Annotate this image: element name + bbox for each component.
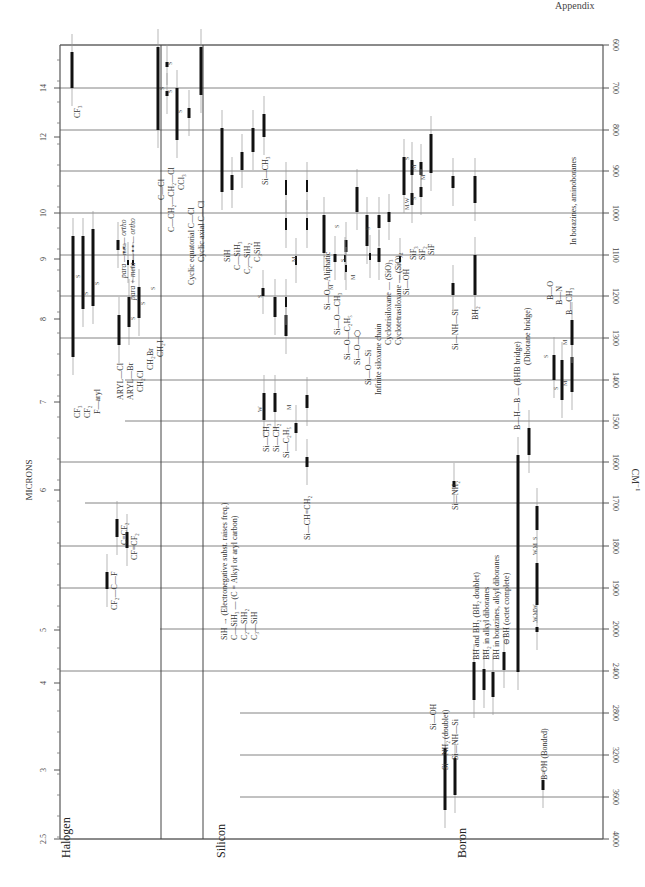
band-bar [188,108,191,118]
intensity-mark: M [411,164,417,170]
um-tick-label: 12 [39,133,48,141]
intensity-mark: M [286,404,292,410]
band-bar [72,236,75,357]
band-bar [420,187,423,197]
band-bar [285,218,287,230]
band-bar [221,128,224,192]
band-label: In borazines, aminoboranes [569,157,578,245]
band-label: CH₂Cl [136,370,145,392]
band-bar [295,423,298,433]
band-label: Si—C₂H₅ [282,426,291,458]
intensity-mark: S [130,317,136,320]
wn-tick-label: 600 [611,39,620,51]
wn-tick-label: 3200 [611,747,620,763]
band-bar [241,152,244,170]
band-bar [306,218,308,230]
band-label: Si—O—C₂H₅ [343,315,352,360]
band-label: ARYL—Br [126,362,135,400]
band-label: ⊖BH (octet complete) [502,572,511,645]
band-label: BH and BH₂ (BH₂ doublet) [472,572,481,660]
wn-tick-label: 1200 [611,288,620,304]
band-bar [536,563,539,605]
band-label: Si—OH [429,704,438,730]
intensity-mark: para — ▪ ▪ — ortho [119,219,128,279]
absorption-bands [71,29,574,828]
section-label-halogen: Halogen [59,817,73,858]
band-label: CCl₃ [177,174,186,190]
intensity-mark: W [257,406,263,412]
wn-tick-label: 1600 [611,454,620,470]
band-bar [452,283,455,295]
band-bar [263,114,266,137]
intensity-mark: M [328,284,334,290]
band-label: Cyclic equatorial C—Cl [187,206,196,285]
wn-tick-label: 1300 [611,330,620,346]
band-label: CF₃ [73,405,82,418]
intensity-mark: S [150,287,156,290]
band-label: C—SiH₃ [233,241,242,270]
wn-tick-label: 700 [611,82,620,94]
um-tick-label: 9 [39,257,48,261]
band-bar [323,215,326,253]
wn-tick-label: 2800 [611,705,620,721]
band-bar [118,315,121,345]
band-bar [528,428,531,455]
band-label: Si—OH [402,269,411,295]
band-bar [176,88,179,140]
micron-axis: 14121098765432.5 [39,60,60,844]
band-label: Si—CH₃ [262,423,271,452]
band-label: Cyclotetrasiloxane — (SiO)₄ [394,252,403,345]
intensity-mark: S [404,157,410,160]
band-label: SiF₃ [409,246,418,260]
intensity-mark: S [334,225,340,228]
wn-tick-label: 1500 [611,413,620,429]
band-label: F—aryl [93,388,102,414]
intensity-mark: S [94,282,100,285]
band-label: B-OH (Bonded) [540,728,549,780]
band-bar [503,652,506,670]
band-bar [82,236,85,309]
um-tick-label: 4 [39,681,48,685]
band-bar [403,157,406,195]
micron-axis-title: MICRONS [24,459,34,500]
band-bar [378,248,381,262]
band-bar [378,215,381,228]
band-label: C—CH₂—CH₂—Cl [167,167,176,232]
intensity-mark: S [365,227,371,230]
band-label: BH in borazines, alkyl diboranes [492,555,501,660]
band-labels: CF₃CF₃CF₂F—arylARYL—ClARYL—BrCH₂ClCH₂BrC… [73,105,578,780]
band-bar [536,506,539,530]
intensity-mark: M [562,339,568,345]
wn-tick-label: 1900 [611,580,620,596]
intensity-mark: S [532,537,538,540]
band-bar [252,128,255,152]
intensity-mark: S [177,110,183,113]
band-label: C=CF₂ [120,522,129,545]
chart-frame [60,45,603,839]
band-bar [285,297,287,307]
band-bar [334,254,337,262]
um-tick-label: 7 [39,400,48,404]
band-bar [571,320,574,345]
intensity-mark: S [340,259,346,262]
band-bar [474,255,477,295]
wavenumber-axis-title: CM−1 [630,468,642,492]
band-bar [306,457,309,467]
band-bar [517,455,520,672]
band-bar [369,253,371,260]
band-label: Infinite siloxane chain [374,323,383,395]
um-tick-label: 3 [39,768,48,772]
um-tick-label: 14 [39,84,48,92]
intensity-mark: W.M [532,609,538,622]
wn-tick-label: 1400 [611,372,620,388]
intensity-mark: S [83,292,89,295]
band-label: SiF₂ [418,246,427,260]
band-label: C₃—SiH [250,611,259,640]
intensity-mark: M.W [404,197,410,210]
band-label: CF=CF₂ [130,533,139,560]
band-bar [542,780,545,790]
band-label: Si—O—⬡ [353,330,362,365]
band-bar [306,180,308,192]
intensity-mark: M [420,174,426,180]
band-bar [483,669,486,690]
